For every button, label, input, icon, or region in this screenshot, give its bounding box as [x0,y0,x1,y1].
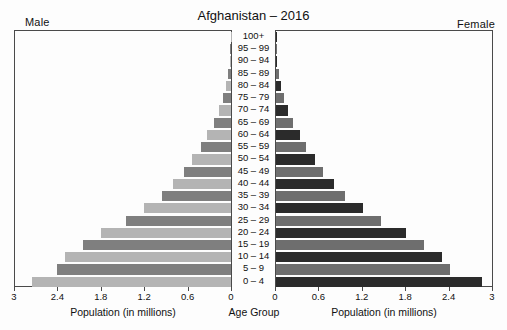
male-bar-row [15,80,231,92]
x-axis-tick-mark [275,287,276,291]
female-bar-row [276,117,492,129]
female-bar-row [276,166,492,178]
x-axis-tick-mark [144,287,145,291]
female-bar [276,228,406,238]
male-bar-row [15,239,231,251]
male-bar-row [15,251,231,263]
male-bar [173,179,231,189]
x-axis-tick-mark [188,287,189,291]
x-axis-tick-label: 3 [479,291,505,302]
x-axis-tick-mark [101,287,102,291]
age-group-label: 60 – 64 [232,128,275,140]
female-bar-row [276,141,492,153]
female-bar-row [276,92,492,104]
female-bar-row [276,276,492,288]
male-bar-row [15,55,231,67]
female-bar [276,142,306,152]
female-bar [276,167,323,177]
male-bar [207,130,231,140]
male-bar [144,203,231,213]
age-group-label: 35 – 39 [232,189,275,201]
male-bar-row [15,68,231,80]
female-bar [276,179,334,189]
male-bar [32,277,231,287]
male-bar [57,264,231,274]
female-bar-row [276,227,492,239]
age-group-label: 55 – 59 [232,140,275,152]
x-axis-tick-mark [449,287,450,291]
age-group-label: 65 – 69 [232,116,275,128]
x-axis-tick-mark [492,287,493,291]
female-bar [276,118,293,128]
population-pyramid-chart: Afghanistan – 2016 Male Female 100+95 – … [0,0,507,330]
female-bar [276,105,288,115]
male-bar [214,118,231,128]
female-bar [276,130,300,140]
female-plot-panel [275,30,493,287]
female-bar-row [276,202,492,214]
age-group-label: 15 – 19 [232,238,275,250]
female-bar [276,93,284,103]
x-axis-tick-label: 2.4 [44,291,70,302]
age-group-label: 25 – 29 [232,214,275,226]
x-axis-tick-label: 1.2 [131,291,157,302]
male-bar-row [15,117,231,129]
age-group-label: 95 – 99 [232,42,275,54]
male-bar [228,69,231,79]
male-bar-row [15,129,231,141]
female-bar-row [276,129,492,141]
female-bar-row [276,239,492,251]
male-bar-row [15,166,231,178]
male-bar [83,240,231,250]
age-group-label: 75 – 79 [232,91,275,103]
male-bar-row [15,190,231,202]
age-group-label: 70 – 74 [232,103,275,115]
female-bar-row [276,80,492,92]
female-bar [276,252,442,262]
female-bar-row [276,55,492,67]
male-bar [230,56,231,66]
male-bar-rows [15,31,231,286]
x-axis-tick-label: 0 [218,291,244,302]
male-side-label: Male [25,16,50,28]
x-axis-tick-mark [14,287,15,291]
male-bar-row [15,276,231,288]
female-bar-row [276,31,492,43]
age-group-label: 40 – 44 [232,177,275,189]
female-bar [276,240,424,250]
age-group-label: 50 – 54 [232,152,275,164]
female-bar [276,56,277,66]
female-bar [276,277,482,287]
age-group-label: 5 – 9 [232,262,275,274]
age-group-label: 80 – 84 [232,79,275,91]
age-group-label: 30 – 34 [232,201,275,213]
female-bar-row [276,43,492,55]
age-group-label: 20 – 24 [232,226,275,238]
female-bar [276,203,363,213]
male-bar-row [15,263,231,275]
age-group-label-column: 100+95 – 9990 – 9485 – 8980 – 8475 – 797… [232,30,275,287]
age-group-label: 10 – 14 [232,250,275,262]
male-bar-row [15,178,231,190]
x-axis-tick-label: 0 [262,291,288,302]
age-group-label: 85 – 89 [232,67,275,79]
female-bar-row [276,153,492,165]
x-axis-tick-label: 0.6 [305,291,331,302]
male-bar-row [15,104,231,116]
male-bar [223,93,231,103]
male-bar [226,81,231,91]
male-bar-row [15,31,231,43]
x-axis-tick-label: 2.4 [436,291,462,302]
x-axis-tick-label: 1.8 [88,291,114,302]
male-bar [184,167,231,177]
male-bar-row [15,153,231,165]
chart-title: Afghanistan – 2016 [0,8,507,23]
x-axis-tick-mark [405,287,406,291]
male-bar-row [15,202,231,214]
female-axis-title: Population (in millions) [275,306,493,318]
female-bar [276,154,315,164]
female-bar [276,44,277,54]
male-plot-panel [14,30,232,287]
male-bar [201,142,231,152]
age-group-label: 45 – 49 [232,165,275,177]
